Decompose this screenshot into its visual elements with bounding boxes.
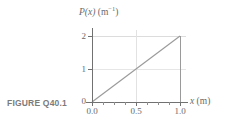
x-tick-label-1.0: 1.0	[167, 106, 193, 116]
chart-svg	[0, 0, 236, 126]
x-axis-label: x (m)	[190, 96, 210, 106]
x-tick-label-0.5: 0.5	[123, 106, 149, 116]
y-tick-label-1: 1	[72, 64, 86, 74]
x-axis-label-unit: (m)	[197, 96, 211, 106]
plot-area: P(x) (m−1)	[0, 0, 236, 126]
x-tick-label-0.0: 0.0	[79, 106, 105, 116]
y-tick-label-0: 0	[72, 96, 86, 106]
y-major-ticks	[88, 36, 92, 102]
y-tick-label-2: 2	[72, 31, 86, 41]
figure-container: FIGURE Q40.1 P(x) (m−1)	[0, 0, 236, 126]
x-axis-label-symbol: x	[190, 96, 194, 106]
